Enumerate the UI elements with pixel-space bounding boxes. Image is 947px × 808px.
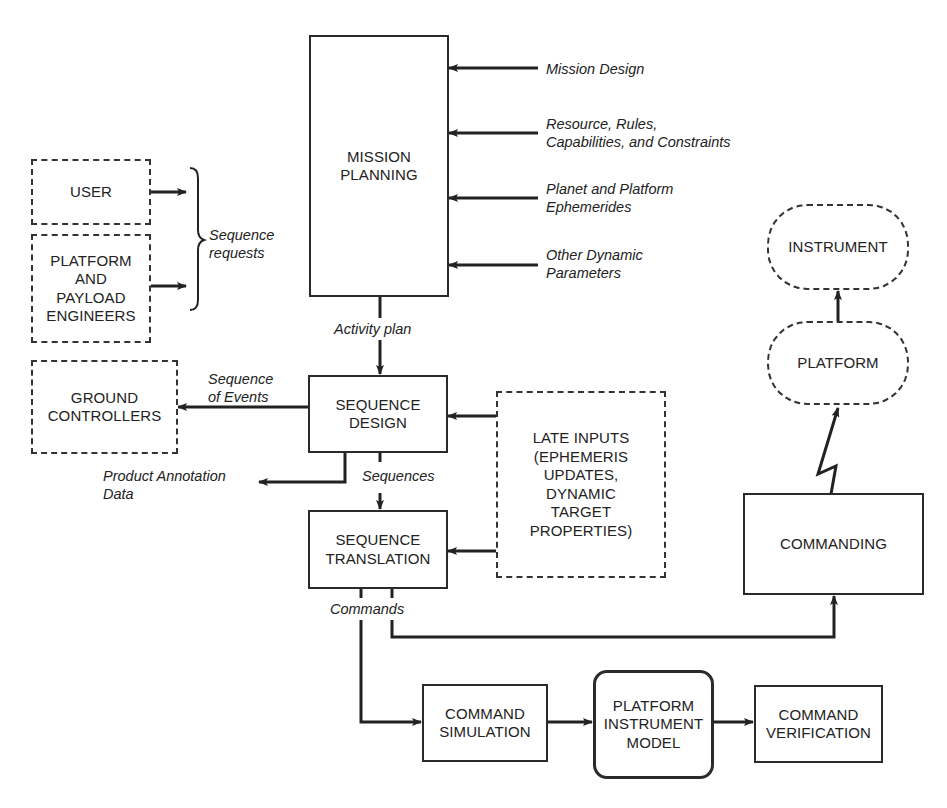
label-other-dynamic: Other Dynamic Parameters xyxy=(546,246,643,282)
label-commands: Commands xyxy=(330,600,404,618)
arrow-commands-to-commanding xyxy=(392,596,834,637)
mission-planning-label: MISSION PLANNING xyxy=(340,148,418,185)
lightning-uplink-icon xyxy=(818,408,838,494)
sequence-translation-box: SEQUENCE TRANSLATION xyxy=(308,510,448,589)
arrow-product-annotation xyxy=(259,452,345,482)
label-activity-plan: Activity plan xyxy=(334,320,411,338)
sequence-translation-label: SEQUENCE TRANSLATION xyxy=(325,531,430,568)
sequence-design-box: SEQUENCE DESIGN xyxy=(308,375,448,453)
commanding-box: COMMANDING xyxy=(743,493,924,595)
ground-controllers-label: GROUND CONTROLLERS xyxy=(48,389,162,426)
label-mission-design: Mission Design xyxy=(546,60,644,78)
instrument-label: INSTRUMENT xyxy=(788,238,887,257)
mission-planning-box: MISSION PLANNING xyxy=(309,35,449,297)
instrument-node: INSTRUMENT xyxy=(767,204,909,290)
sequence-design-label: SEQUENCE DESIGN xyxy=(336,396,421,433)
ground-controllers-box: GROUND CONTROLLERS xyxy=(31,360,178,454)
command-verification-box: COMMAND VERIFICATION xyxy=(754,685,883,763)
label-resources-rules: Resource, Rules, Capabilities, and Const… xyxy=(546,115,731,151)
label-ephemerides: Planet and Platform Ephemerides xyxy=(546,180,673,216)
command-simulation-box: COMMAND SIMULATION xyxy=(422,684,548,762)
command-verification-label: COMMAND VERIFICATION xyxy=(766,706,871,743)
label-sequences: Sequences xyxy=(362,467,435,485)
brace-icon xyxy=(190,168,204,310)
late-inputs-box: LATE INPUTS (EPHEMERIS UPDATES, DYNAMIC … xyxy=(496,391,666,578)
command-simulation-label: COMMAND SIMULATION xyxy=(439,705,531,742)
platform-node: PLATFORM xyxy=(767,321,909,405)
platform-instrument-model-box: PLATFORM INSTRUMENT MODEL xyxy=(593,670,714,779)
platform-label: PLATFORM xyxy=(797,354,878,373)
platform-payload-engineers-label: PLATFORM AND PAYLOAD ENGINEERS xyxy=(46,252,135,326)
label-sequence-of-events: Sequence of Events xyxy=(208,370,273,406)
user-label: USER xyxy=(70,183,112,202)
platform-payload-engineers-box: PLATFORM AND PAYLOAD ENGINEERS xyxy=(31,234,151,343)
label-sequence-requests: Sequence requests xyxy=(209,226,274,262)
platform-instrument-model-label: PLATFORM INSTRUMENT MODEL xyxy=(604,697,703,753)
commanding-label: COMMANDING xyxy=(780,535,887,554)
late-inputs-label: LATE INPUTS (EPHEMERIS UPDATES, DYNAMIC … xyxy=(530,429,633,540)
label-product-annotation: Product Annotation Data xyxy=(103,467,226,503)
user-box: USER xyxy=(31,159,151,225)
